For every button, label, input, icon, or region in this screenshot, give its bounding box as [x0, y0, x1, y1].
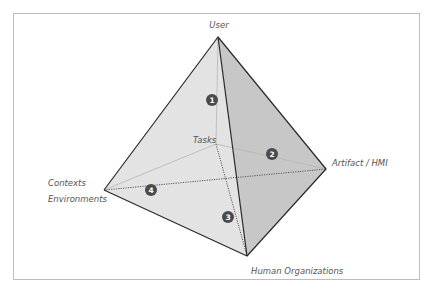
label-environments: Environments [48, 194, 107, 204]
marker-2: 2 [266, 148, 278, 160]
marker-3: 3 [222, 211, 234, 223]
label-user: User [209, 20, 229, 30]
svg-text:3: 3 [225, 213, 230, 222]
tetrahedron-diagram: 1 2 3 4 User Tasks Artifact / HMI Contex… [0, 0, 434, 291]
label-tasks: Tasks [193, 135, 217, 145]
svg-text:1: 1 [209, 96, 214, 105]
marker-4: 4 [145, 184, 157, 196]
label-contexts: Contexts [48, 178, 86, 188]
label-artifact: Artifact / HMI [331, 158, 388, 168]
svg-text:2: 2 [269, 150, 274, 159]
label-human-organizations: Human Organizations [251, 266, 344, 276]
svg-text:4: 4 [148, 186, 153, 195]
marker-1: 1 [206, 94, 218, 106]
